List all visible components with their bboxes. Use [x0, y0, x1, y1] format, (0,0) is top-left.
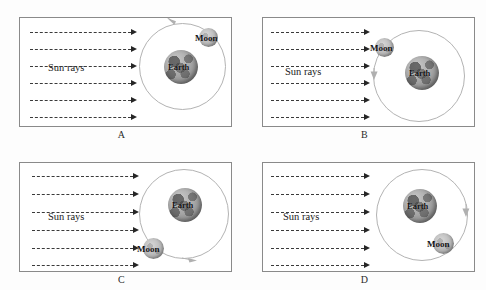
sun-ray-b-1: [271, 32, 371, 33]
panel-b: Sun rays: [243, 0, 486, 145]
figure-canvas: Sun rays: [0, 0, 486, 290]
sun-ray-a-3: [30, 66, 138, 67]
sun-ray-b-3: [271, 66, 371, 67]
sun-ray-c-3: [32, 212, 140, 213]
panel-a-frame: Sun rays: [19, 17, 232, 127]
orbit-direction-arrow-b: [368, 66, 382, 88]
panel-d-label: D: [243, 274, 486, 285]
sun-ray-d-4: [271, 230, 371, 231]
sun-ray-a-2: [30, 49, 138, 50]
sun-ray-c-4: [32, 230, 140, 231]
sun-ray-d-3: [271, 212, 371, 213]
panel-c-label: C: [0, 274, 243, 285]
sun-ray-c-5: [32, 248, 140, 249]
panel-c-frame: Sun rays: [19, 162, 232, 272]
sun-ray-b-5: [271, 100, 371, 101]
sun-ray-d-6: [271, 265, 371, 266]
sun-rays-label-a: Sun rays: [48, 62, 84, 73]
panel-c: Sun rays: [0, 145, 243, 290]
sun-ray-c-2: [32, 194, 140, 195]
earth-label-a: Earth: [168, 62, 189, 72]
panel-b-label: B: [243, 129, 486, 140]
panel-d-frame: Sun rays: [262, 162, 475, 272]
panel-a-label: A: [0, 129, 243, 140]
moon-label-a: Moon: [195, 33, 218, 43]
sun-ray-a-1: [30, 32, 138, 33]
sun-ray-d-2: [271, 194, 371, 195]
orbit-direction-arrow-a: [166, 17, 188, 29]
sun-ray-d-1: [271, 176, 371, 177]
earth-label-c: Earth: [172, 200, 193, 210]
panel-a: Sun rays: [0, 0, 243, 145]
earth-label-b: Earth: [409, 68, 430, 78]
orbit-direction-arrow-c: [180, 251, 204, 265]
moon-label-c: Moon: [137, 244, 160, 254]
sun-ray-a-6: [30, 117, 138, 118]
moon-label-b: Moon: [370, 43, 393, 53]
panel-d: Sun rays: [243, 145, 486, 290]
orbit-direction-arrow-d: [458, 202, 474, 226]
sun-ray-d-5: [271, 248, 371, 249]
sun-ray-c-6: [32, 265, 140, 266]
sun-ray-a-5: [30, 100, 138, 101]
earth-label-d: Earth: [407, 201, 428, 211]
sun-ray-a-4: [30, 83, 138, 84]
sun-ray-c-1: [32, 176, 140, 177]
sun-ray-b-6: [271, 117, 371, 118]
moon-label-d: Moon: [427, 239, 450, 249]
sun-rays-label-b: Sun rays: [285, 66, 321, 77]
panel-b-frame: Sun rays: [262, 17, 475, 127]
sun-ray-b-4: [271, 83, 371, 84]
sun-ray-b-2: [271, 49, 371, 50]
